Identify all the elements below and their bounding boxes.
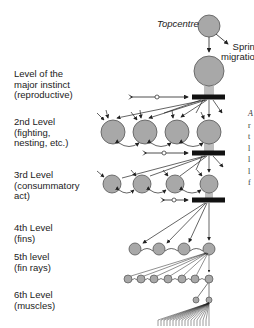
level4-to-level5-links xyxy=(131,253,209,276)
irm-block-2 xyxy=(142,150,225,156)
topcentre-label: Topcentre xyxy=(157,18,199,29)
level3-to-level4-links xyxy=(143,203,209,243)
level5-nodes xyxy=(124,275,213,283)
irm-block-1 xyxy=(128,94,225,100)
level-major-instinct-label: Level of the major instinct (reproductiv… xyxy=(14,69,73,101)
fragment: l xyxy=(248,166,253,178)
major-instinct-node xyxy=(194,56,224,97)
level1-to-level2-links xyxy=(117,100,222,118)
level-5-label: 5th level (fin rays) xyxy=(14,252,51,273)
level2-nodes xyxy=(97,110,221,151)
hierarchy-diagram xyxy=(0,0,254,328)
level3-nodes xyxy=(97,170,218,199)
level4-nodes xyxy=(129,243,215,255)
level-2-label: 2nd Level (fighting, nesting, etc.) xyxy=(14,117,68,149)
right-edge-text-fragments: A r t l l l f xyxy=(248,108,253,189)
level-6-label: 6th Level (muscles) xyxy=(14,290,55,311)
fragment: l xyxy=(248,154,253,166)
fragment: t xyxy=(248,131,253,143)
fragment: r xyxy=(248,120,253,132)
spring-migration-label: Spring migration xyxy=(221,42,254,62)
level-4-label: 4th Level (fins) xyxy=(14,223,53,244)
fragment: l xyxy=(248,143,253,155)
level6-nodes xyxy=(193,283,212,303)
level-3-label: 3rd Level (consummatory act) xyxy=(14,170,79,202)
irm-block-3 xyxy=(160,197,225,203)
muscle-fan xyxy=(158,303,209,326)
fragment: A xyxy=(248,108,253,120)
fragment: f xyxy=(248,177,253,189)
